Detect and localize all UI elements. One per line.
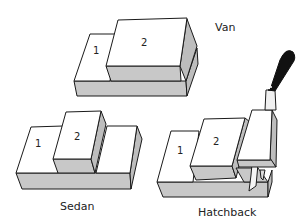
- sedan-box2-label: 2: [74, 131, 80, 142]
- van-box1-label: 1: [93, 45, 99, 56]
- sedan-label: Sedan: [60, 200, 94, 213]
- knife-bolster: [265, 90, 276, 110]
- hatch-box3-bottom: [237, 160, 276, 167]
- sedan-base-front: [16, 173, 131, 189]
- sedan-box1-label: 1: [35, 138, 41, 149]
- knife-handle-icon: [268, 51, 295, 91]
- sedan-box2-front: [53, 159, 95, 173]
- hatchback-label: Hatchback: [198, 206, 257, 219]
- van-box2-label: 2: [141, 37, 147, 48]
- hatch-box2-front: [190, 166, 236, 180]
- van-box2-front: [106, 66, 181, 81]
- knife-rivet: [270, 86, 272, 88]
- hatch-box2-label: 2: [213, 136, 219, 147]
- sedan-figure: 1 2 Sedan: [16, 111, 142, 213]
- hatch-base-side: [268, 170, 272, 197]
- van-figure: 1 2 Van: [74, 18, 235, 96]
- van-label: Van: [215, 21, 235, 34]
- car-shapes-diagram: 1 2 Van 1 2 Sedan: [0, 0, 308, 223]
- van-base-front: [74, 81, 187, 96]
- hatch-box1-label: 1: [177, 145, 183, 156]
